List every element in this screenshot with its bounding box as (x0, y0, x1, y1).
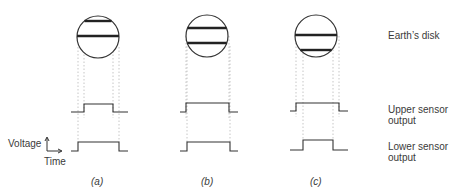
lower-sensor-pulse-c (290, 140, 348, 150)
voltage-label: Voltage (8, 138, 41, 149)
lower-sensor-label: Lower sensor output (388, 141, 448, 163)
voltage-time-axes-icon (45, 137, 62, 153)
caption-a: (a) (91, 176, 103, 187)
upper-sensor-label-line1: Upper sensor (388, 104, 448, 115)
lower-sensor-label-line1: Lower sensor (388, 141, 448, 152)
upper-sensor-label-line2: output (388, 115, 448, 126)
lower-sensor-label-line2: output (388, 152, 448, 163)
upper-sensor-pulse-b (180, 103, 238, 112)
time-label: Time (44, 156, 66, 167)
upper-sensor-pulse-c (290, 103, 348, 111)
earth-disk-a (77, 16, 119, 58)
earth-disk-b (186, 15, 228, 57)
earth-disk-label: Earth’s disk (388, 30, 440, 41)
lower-sensor-pulse-a (71, 142, 128, 151)
upper-sensor-label: Upper sensor output (388, 104, 448, 126)
sensor-diagram (0, 0, 455, 192)
sensor-pulses (71, 103, 348, 151)
lower-sensor-pulse-b (180, 142, 238, 151)
earth-disk-c (295, 15, 337, 57)
caption-b: (b) (201, 176, 213, 187)
upper-sensor-pulse-a (71, 104, 128, 112)
caption-c: (c) (310, 176, 322, 187)
earth-disks (77, 15, 337, 58)
